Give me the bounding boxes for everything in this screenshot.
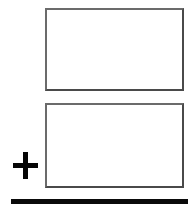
plus-icon-vertical-bar [23, 152, 28, 179]
second-addend-value [47, 105, 182, 186]
second-addend-box[interactable] [45, 103, 184, 188]
first-addend-value [47, 10, 182, 89]
plus-icon: + [13, 152, 38, 179]
plus-icon-symbol: + [13, 152, 14, 153]
sum-line [11, 199, 188, 204]
addition-worksheet-figure: + [0, 0, 195, 217]
first-addend-box[interactable] [45, 8, 184, 91]
